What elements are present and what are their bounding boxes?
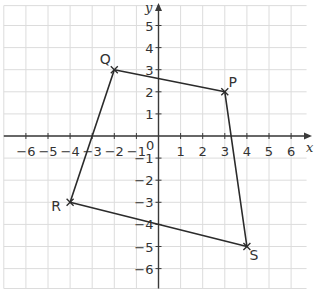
point-label: Q [100, 51, 111, 67]
y-axis-arrow-icon [155, 3, 162, 11]
x-tick-label: 3 [221, 144, 229, 159]
x-axis-arrow-icon [304, 133, 312, 140]
y-tick-label: −2 [134, 173, 153, 188]
x-tick-label: −4 [61, 144, 80, 159]
coordinate-grid-diagram: x y 0 −6−5−4−3−2−112345654321−1−2−3−4−5−… [0, 0, 314, 300]
point-label: R [51, 198, 61, 214]
point-label: S [249, 247, 258, 263]
y-axis-label: y [144, 0, 153, 15]
x-tick-label: 5 [265, 144, 273, 159]
y-tick-label: 5 [145, 19, 153, 34]
x-tick-label: 4 [243, 144, 251, 159]
tick-labels: −6−5−4−3−2−112345654321−1−2−3−4−5−6 [16, 19, 295, 277]
point-s: S [243, 243, 258, 263]
x-tick-label: 2 [199, 144, 207, 159]
x-tick-label: −5 [38, 144, 57, 159]
y-tick-label: −3 [134, 195, 153, 210]
y-tick-label: −6 [134, 262, 153, 277]
y-tick-label: 2 [145, 85, 153, 100]
y-tick-label: 4 [145, 41, 153, 56]
x-tick-label: −6 [16, 144, 35, 159]
x-tick-label: 1 [176, 144, 184, 159]
y-tick-label: −1 [134, 151, 153, 166]
x-tick-label: 6 [287, 144, 295, 159]
y-tick-label: 1 [145, 107, 153, 122]
x-tick-label: −2 [105, 144, 124, 159]
point-label: P [229, 74, 237, 90]
y-tick-label: −5 [134, 240, 153, 255]
x-axis-label: x [306, 140, 314, 155]
